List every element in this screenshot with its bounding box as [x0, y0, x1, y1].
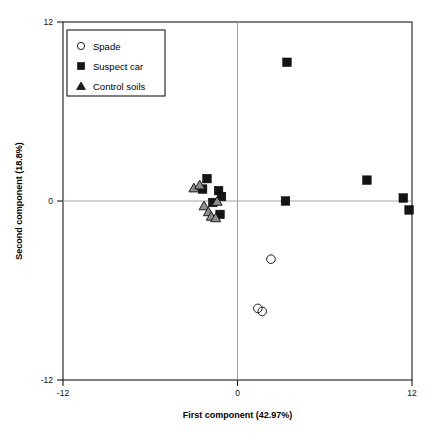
x-axis-title: First component (42.97%)	[183, 410, 293, 420]
legend-label-spade: Spade	[93, 41, 120, 52]
marker-square	[203, 174, 212, 183]
x-tick-label-neg12: -12	[57, 388, 70, 398]
y-tick-label-0: 0	[48, 196, 53, 206]
x-tick-label-0: 0	[235, 388, 240, 398]
marker-square	[405, 206, 414, 215]
scatter-plot-figure: 12 0 -12 -12 0 12 First component (42.97…	[0, 0, 440, 443]
marker-square	[363, 176, 372, 185]
marker-square	[399, 194, 408, 203]
y-axis-title: Second component (18.8%)	[14, 142, 24, 260]
legend: Spade Suspect car Control soils	[67, 30, 165, 96]
legend-marker-suspect-car-square-icon	[78, 63, 85, 70]
y-tick-label-neg12: -12	[41, 375, 54, 385]
marker-square	[281, 197, 290, 206]
legend-label-suspect-car: Suspect car	[93, 61, 143, 72]
plot-canvas: 12 0 -12 -12 0 12 First component (42.97…	[0, 0, 440, 443]
y-tick-label-12: 12	[44, 17, 54, 27]
marker-square	[283, 58, 292, 67]
legend-label-control-soils: Control soils	[93, 81, 146, 92]
x-tick-label-12: 12	[407, 388, 417, 398]
